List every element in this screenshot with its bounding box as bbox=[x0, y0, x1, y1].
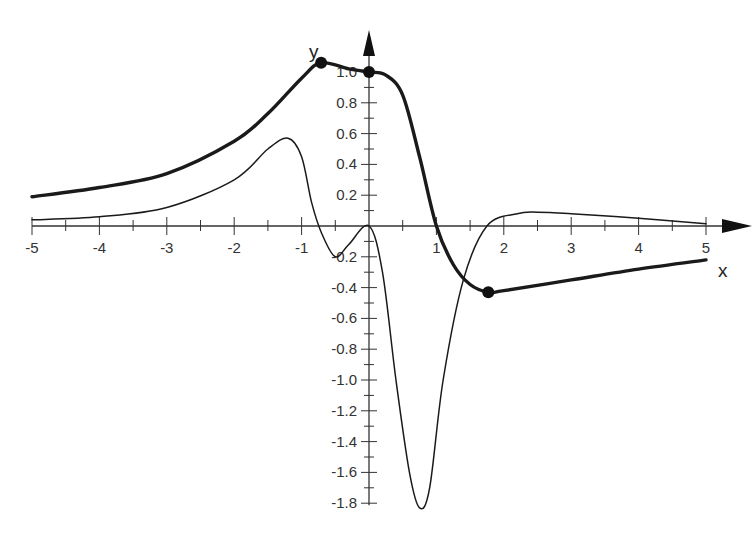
y-axis-label: y bbox=[309, 41, 319, 62]
x-tick-label: -2 bbox=[228, 239, 241, 256]
y-tick-label: -1.6 bbox=[331, 463, 357, 480]
x-tick-label: 1 bbox=[432, 239, 440, 256]
x-tick-label: 4 bbox=[634, 239, 642, 256]
x-axis-arrow-icon bbox=[722, 219, 752, 233]
y-tick-label: -1.4 bbox=[331, 433, 357, 450]
y-tick-label: -0.8 bbox=[331, 340, 357, 357]
y-tick-label: -1.8 bbox=[331, 494, 357, 511]
y-tick-label: -0.4 bbox=[331, 279, 357, 296]
x-tick-label: 2 bbox=[500, 239, 508, 256]
point-minimum bbox=[482, 286, 494, 298]
y-axis-arrow-icon bbox=[363, 30, 375, 56]
x-tick-label: -3 bbox=[160, 239, 173, 256]
x-tick-label: 3 bbox=[567, 239, 575, 256]
point-y-intercept bbox=[363, 66, 375, 78]
y-tick-label: 0.2 bbox=[336, 186, 357, 203]
y-tick-label: -1.2 bbox=[331, 402, 357, 419]
x-axis-label: x bbox=[718, 260, 728, 281]
x-tick-label: -4 bbox=[93, 239, 106, 256]
ticks: -5-4-3-2-1123451.00.80.60.40.2-0.2-0.4-0… bbox=[25, 63, 710, 511]
y-tick-label: 0.6 bbox=[336, 125, 357, 142]
y-tick-label: -1.0 bbox=[331, 371, 357, 388]
x-tick-label: 5 bbox=[702, 239, 710, 256]
y-tick-label: 0.4 bbox=[336, 155, 357, 172]
x-tick-label: -1 bbox=[295, 239, 308, 256]
function-plot: -5-4-3-2-1123451.00.80.60.40.2-0.2-0.4-0… bbox=[0, 0, 754, 540]
y-tick-label: 0.8 bbox=[336, 94, 357, 111]
y-tick-label: -0.6 bbox=[331, 309, 357, 326]
x-tick-label: -5 bbox=[25, 239, 38, 256]
